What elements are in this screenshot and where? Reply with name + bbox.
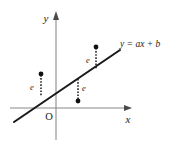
x-axis-label: x <box>125 113 131 125</box>
regression-figure: y x O y = ax + b e e e <box>0 0 173 150</box>
x-axis-arrowhead <box>124 105 132 111</box>
regression-diagram-svg: y x O y = ax + b e e e <box>0 0 173 150</box>
residual-group-1 <box>39 72 44 96</box>
y-axis-arrowhead <box>53 11 59 20</box>
y-axis-label: y <box>43 12 49 24</box>
data-point-1 <box>39 72 44 77</box>
residual-label-2: e <box>82 83 86 93</box>
data-point-2 <box>76 99 81 104</box>
y-axis <box>53 11 59 140</box>
x-axis <box>10 105 132 111</box>
origin-label: O <box>45 111 53 122</box>
regression-equation-label: y = ax + b <box>119 39 161 49</box>
residual-group-2 <box>76 79 81 103</box>
residual-label-3: e <box>86 55 90 65</box>
data-point-3 <box>94 45 99 50</box>
residual-label-1: e <box>30 82 34 92</box>
